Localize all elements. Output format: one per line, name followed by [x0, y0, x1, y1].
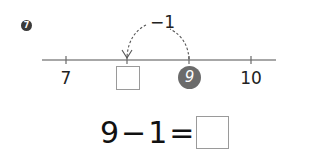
equation-operator: −	[121, 115, 146, 150]
equation-equals: =	[169, 115, 194, 150]
equation: 9 − 1 =	[100, 112, 229, 152]
tick-label-7: 7	[61, 68, 72, 88]
tick-label-10: 10	[240, 68, 262, 88]
number-line-answer-box[interactable]	[116, 66, 140, 90]
jump-label: −1	[150, 12, 175, 32]
highlighted-number-9: 9	[178, 66, 201, 89]
equation-left-operand: 9	[100, 115, 119, 150]
jump-arc	[170, 29, 189, 59]
jump-arc-left	[127, 25, 146, 57]
equation-right-operand: 1	[148, 115, 167, 150]
equation-answer-box[interactable]	[196, 116, 229, 149]
